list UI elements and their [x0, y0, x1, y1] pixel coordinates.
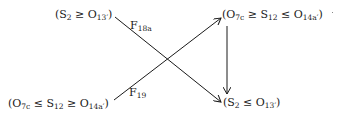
edge-label-f18a: F18a	[130, 19, 152, 33]
node-bottom-right: (S2 ≤ O13′)	[223, 96, 280, 110]
edge-label-f19: F19	[129, 86, 146, 100]
node-top-right: (O7c ≥ S12 ≤ O14a′)	[222, 8, 323, 22]
stray-mark	[332, 12, 333, 13]
node-top-left: (S2 ≥ O13′)	[55, 8, 112, 22]
node-bottom-left: (O7c ≤ S12 ≥ O14a′)	[8, 97, 109, 111]
